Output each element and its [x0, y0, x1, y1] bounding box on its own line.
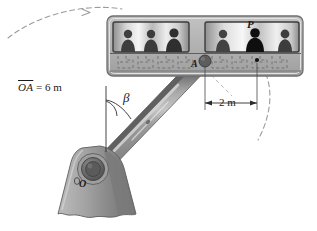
dimension-label: 2 m — [219, 97, 236, 108]
figure-canvas — [0, 0, 317, 231]
passengers-left — [121, 28, 182, 52]
physics-figure: OA = 6 m β 2 m A O P — [0, 0, 317, 231]
motion-arc-right — [258, 66, 270, 140]
base-pedestal — [58, 146, 136, 217]
point-p-marker — [255, 58, 259, 62]
motion-arc-left — [8, 7, 122, 38]
point-a-label: A — [191, 59, 198, 69]
point-p-label: P — [247, 19, 254, 30]
arm-length-overbar: OA — [18, 81, 33, 93]
arm-length-value: = 6 m — [33, 81, 62, 93]
window-panel-left — [113, 22, 189, 52]
point-o-label: O — [79, 179, 86, 189]
arm-length-label: OA = 6 m — [18, 82, 62, 93]
angle-beta-label: β — [123, 91, 129, 104]
point-a-marker — [199, 55, 211, 67]
